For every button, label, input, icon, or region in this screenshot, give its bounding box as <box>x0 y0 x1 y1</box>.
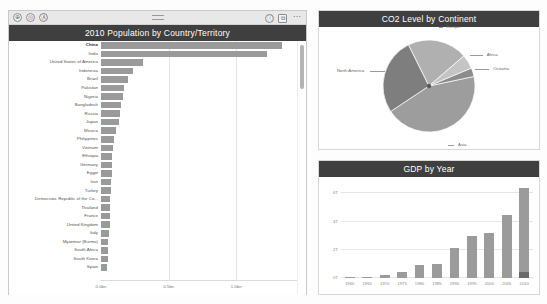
bar-row[interactable]: Mexico <box>9 126 297 135</box>
bar-row[interactable]: Vietnam <box>9 144 297 153</box>
bar-row[interactable]: Iran <box>9 178 297 187</box>
bar-row[interactable]: Nigeria <box>9 92 297 101</box>
gdp-column[interactable]: 1975 <box>397 272 407 278</box>
gdp-column[interactable]: 1980 <box>415 265 425 278</box>
gdp-column[interactable]: 1965 <box>362 277 372 278</box>
bar-track <box>101 135 297 144</box>
gdp-column[interactable]: 2005 <box>502 215 512 278</box>
bar-row[interactable]: Democratic Republic of the Co... <box>9 195 297 204</box>
gdp-chart-body: 0T2T4T6T19601965197019751980198519901995… <box>319 177 539 293</box>
bar-row[interactable]: France <box>9 212 297 221</box>
gdp-column-segment-a[interactable] <box>345 277 355 278</box>
gdp-column-segment-a[interactable] <box>397 272 407 278</box>
bar-row[interactable]: United States of America <box>9 58 297 67</box>
bar-track <box>101 255 297 264</box>
bar-fill[interactable] <box>101 59 143 66</box>
bar-row[interactable]: China <box>9 41 297 50</box>
gdp-column[interactable]: 2010 <box>519 188 529 278</box>
bar-chart-plot: ChinaIndiaUnited States of AmericaIndone… <box>9 41 297 295</box>
bar-row[interactable]: Japan <box>9 118 297 127</box>
bar-row[interactable]: Russia <box>9 109 297 118</box>
bar-track <box>101 229 297 238</box>
bar-row[interactable]: Myanmar (Burma) <box>9 238 297 247</box>
bar-row[interactable]: Philippines <box>9 135 297 144</box>
gdp-column[interactable]: 1985 <box>432 264 442 278</box>
bar-fill[interactable] <box>101 51 267 58</box>
accessibility-icon[interactable]: Ⓐ <box>39 13 48 22</box>
gdp-column-segment-a[interactable] <box>519 188 529 272</box>
bar-track <box>101 101 297 110</box>
focus-mode-icon[interactable]: ⧉ <box>278 14 287 23</box>
bar-fill[interactable] <box>101 145 113 152</box>
bar-row[interactable]: United Kingdom <box>9 220 297 229</box>
bar-fill[interactable] <box>101 213 110 220</box>
bar-fill[interactable] <box>101 162 112 169</box>
gdp-column-segment-a[interactable] <box>467 236 477 278</box>
filter-icon[interactable]: ◎ <box>26 13 35 22</box>
bar-row[interactable]: Egypt <box>9 169 297 178</box>
bar-fill[interactable] <box>101 93 123 100</box>
bar-row[interactable]: Italy <box>9 229 297 238</box>
bar-row[interactable]: India <box>9 50 297 59</box>
y-axis-tick-label: 4T <box>333 218 338 223</box>
gdp-column-segment-a[interactable] <box>380 275 390 278</box>
bar-row[interactable]: Pakistan <box>9 84 297 93</box>
gdp-column[interactable]: 1960 <box>345 277 355 278</box>
bar-row[interactable]: South Korea <box>9 255 297 264</box>
bar-fill[interactable] <box>101 76 128 83</box>
bar-fill[interactable] <box>101 153 112 160</box>
gdp-column-segment-a[interactable] <box>432 264 442 278</box>
gdp-column[interactable]: 2000 <box>484 233 494 278</box>
focus-icon[interactable]: ⊕ <box>13 13 22 22</box>
bar-row[interactable]: Indonesia <box>9 67 297 76</box>
scrollbar-thumb[interactable] <box>300 45 304 89</box>
pie-slice-label: North America <box>337 68 364 73</box>
bar-track <box>101 220 297 229</box>
bar-track <box>101 169 297 178</box>
gridline: 6T <box>341 192 533 193</box>
bar-fill[interactable] <box>101 68 133 75</box>
gdp-column-segment-a[interactable] <box>484 233 494 278</box>
bar-row[interactable]: Germany <box>9 161 297 170</box>
bar-fill[interactable] <box>101 247 108 254</box>
bar-fill[interactable] <box>101 119 119 126</box>
drag-handle[interactable] <box>152 15 164 20</box>
bar-fill[interactable] <box>101 85 124 92</box>
bar-fill[interactable] <box>101 230 109 237</box>
gdp-column-segment-a[interactable] <box>362 277 372 278</box>
pie-leader-line <box>448 145 454 146</box>
bar-fill[interactable] <box>101 264 107 271</box>
gdp-column-segment-a[interactable] <box>502 215 512 278</box>
gdp-column-segment-b[interactable] <box>519 272 529 278</box>
bar-row[interactable]: Ethiopia <box>9 152 297 161</box>
bar-fill[interactable] <box>101 170 112 177</box>
gdp-column[interactable]: 1995 <box>467 236 477 278</box>
more-options-icon[interactable]: ⋯ <box>291 14 302 23</box>
bar-fill[interactable] <box>101 187 111 194</box>
bar-category-label: Mexico <box>9 127 101 135</box>
bar-row[interactable]: Thailand <box>9 203 297 212</box>
bar-fill[interactable] <box>101 136 114 143</box>
gdp-column[interactable]: 1990 <box>450 248 460 278</box>
bar-row[interactable]: Bangladesh <box>9 101 297 110</box>
bar-fill[interactable] <box>101 110 120 117</box>
bar-fill[interactable] <box>101 256 108 263</box>
gdp-column-segment-a[interactable] <box>450 248 460 278</box>
bar-fill[interactable] <box>101 196 110 203</box>
bar-row[interactable]: South Africa <box>9 246 297 255</box>
gdp-column-segment-a[interactable] <box>415 265 425 278</box>
bar-row[interactable]: Turkey <box>9 186 297 195</box>
bar-fill[interactable] <box>101 42 282 49</box>
bar-fill[interactable] <box>101 221 110 228</box>
vertical-scrollbar[interactable] <box>297 41 306 295</box>
gdp-column[interactable]: 1970 <box>380 275 390 278</box>
bar-fill[interactable] <box>101 179 111 186</box>
info-icon[interactable]: ⓘ <box>265 14 274 23</box>
bar-fill[interactable] <box>101 127 116 134</box>
bar-row[interactable]: Brazil <box>9 75 297 84</box>
bar-fill[interactable] <box>101 239 108 246</box>
bar-fill[interactable] <box>101 204 110 211</box>
bar-track <box>101 50 297 59</box>
bar-fill[interactable] <box>101 102 121 109</box>
bar-row[interactable]: Spain <box>9 263 297 272</box>
